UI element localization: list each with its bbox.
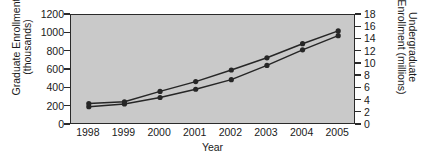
y-tick-label-left: 400 bbox=[24, 82, 64, 93]
y-tick-label-left: 800 bbox=[24, 45, 64, 56]
y-tick-label-right: 4 bbox=[364, 94, 386, 105]
y-tick-label-right: 2 bbox=[364, 107, 386, 118]
chart-figure: Graduate Enrollment (thousands) Undergra… bbox=[0, 0, 427, 164]
data-point-marker bbox=[300, 47, 305, 52]
y-tick-label-left: 1000 bbox=[24, 27, 64, 38]
y-tick-label-right: 16 bbox=[364, 21, 386, 32]
y-axis-title-right: Undergraduate Enrollment (millions) bbox=[390, 0, 424, 107]
data-point-marker bbox=[300, 41, 305, 46]
x-axis-title: Year bbox=[70, 141, 355, 153]
data-point-marker bbox=[336, 33, 341, 38]
y-tick-label-right: 6 bbox=[364, 82, 386, 93]
y-tick-label-left: 200 bbox=[24, 100, 64, 111]
y-axis-title-right-line1: Undergraduate bbox=[407, 12, 418, 82]
plot-lines bbox=[71, 15, 356, 125]
data-point-marker bbox=[264, 55, 269, 60]
data-point-marker bbox=[157, 95, 162, 100]
series-line-2 bbox=[89, 31, 338, 104]
data-point-marker bbox=[229, 67, 234, 72]
y-tick-label-right: 8 bbox=[364, 70, 386, 81]
series-line-1 bbox=[89, 36, 338, 107]
y-tick-label-right: 10 bbox=[364, 58, 386, 69]
y-tick-label-right: 0 bbox=[364, 119, 386, 130]
data-point-marker bbox=[264, 63, 269, 68]
y-axis-title-right-line2: Enrollment (millions) bbox=[396, 0, 407, 95]
y-tick-label-right: 18 bbox=[364, 9, 386, 20]
data-point-marker bbox=[193, 87, 198, 92]
data-point-marker bbox=[157, 89, 162, 94]
plot-area bbox=[70, 14, 355, 124]
y-tick-label-right: 14 bbox=[364, 33, 386, 44]
data-point-marker bbox=[86, 101, 91, 106]
x-tick-label: 2005 bbox=[315, 127, 359, 138]
y-tick-label-right: 12 bbox=[364, 45, 386, 56]
y-tick-label-left: 600 bbox=[24, 64, 64, 75]
data-point-marker bbox=[122, 99, 127, 104]
data-point-marker bbox=[229, 77, 234, 82]
data-point-marker bbox=[336, 28, 341, 33]
y-tick-label-left: 1200 bbox=[24, 9, 64, 20]
y-tick-label-left: 0 bbox=[24, 119, 64, 130]
data-point-marker bbox=[193, 79, 198, 84]
